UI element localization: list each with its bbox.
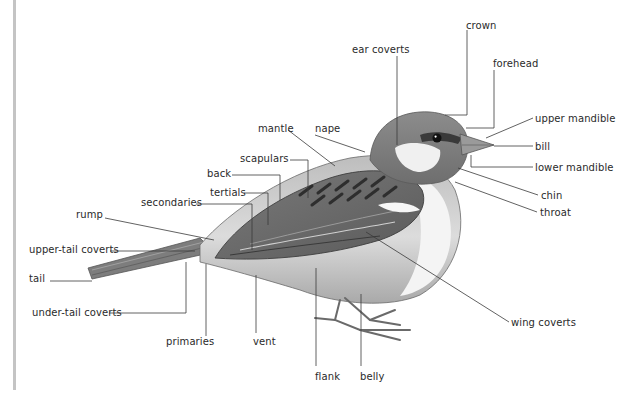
leader-rump bbox=[105, 218, 214, 240]
leader-chin bbox=[458, 168, 538, 195]
label-under-tail-coverts: under-tail coverts bbox=[32, 307, 122, 319]
label-mantle: mantle bbox=[258, 123, 294, 135]
leader-throat bbox=[455, 182, 537, 212]
label-back: back bbox=[207, 168, 231, 180]
leader-forehead bbox=[466, 70, 494, 128]
bird-anatomy-diagram: crown ear coverts forehead upper mandibl… bbox=[0, 0, 631, 396]
label-rump: rump bbox=[76, 209, 103, 221]
label-upper-mandible: upper mandible bbox=[535, 113, 616, 125]
leader-crown bbox=[445, 30, 467, 115]
label-ear-coverts: ear coverts bbox=[352, 44, 410, 56]
label-vent: vent bbox=[253, 336, 276, 348]
label-primaries: primaries bbox=[166, 336, 214, 348]
label-crown: crown bbox=[466, 20, 497, 32]
label-bill: bill bbox=[535, 141, 550, 153]
label-forehead: forehead bbox=[493, 58, 538, 70]
label-upper-tail-coverts: upper-tail coverts bbox=[29, 244, 119, 256]
leader-nape bbox=[315, 135, 365, 152]
label-lower-mandible: lower mandible bbox=[535, 162, 614, 174]
label-flank: flank bbox=[315, 371, 340, 383]
leader-mantle bbox=[288, 130, 335, 166]
label-scapulars: scapulars bbox=[240, 153, 289, 165]
label-wing-coverts: wing coverts bbox=[511, 317, 576, 329]
label-throat: throat bbox=[540, 207, 571, 219]
label-tail: tail bbox=[29, 273, 45, 285]
feet-shape bbox=[315, 298, 410, 340]
label-chin: chin bbox=[541, 190, 562, 202]
label-tertials: tertials bbox=[210, 187, 246, 199]
head-shape bbox=[370, 112, 494, 184]
label-nape: nape bbox=[315, 123, 340, 135]
label-belly: belly bbox=[360, 371, 384, 383]
leader-lower-mandible bbox=[471, 155, 533, 167]
label-secondaries: secondaries bbox=[141, 197, 202, 209]
